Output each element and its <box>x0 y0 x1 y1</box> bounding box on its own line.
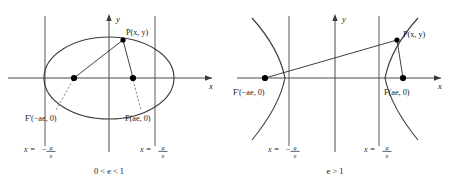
right-focus-point <box>400 75 406 81</box>
hyperbola-panel: x y P(x, y) F'(−ae, 0) F(ae, 0) x = − a … <box>229 0 458 182</box>
right-directrix-label: x = a e <box>139 144 168 160</box>
left-directrix-lhs: x = <box>23 145 35 154</box>
right-directrix-numerator: a <box>161 144 164 151</box>
left-focus-label: F'(−ae, 0) <box>233 88 265 97</box>
left-directrix-lhs: x = <box>267 145 279 154</box>
y-axis-arrowhead <box>332 14 337 21</box>
y-axis-label: y <box>341 14 346 24</box>
ellipse-panel: x y P(x, y) F'(−ae, 0) F(ae, 0) x = − a … <box>0 0 229 182</box>
y-axis-arrowhead <box>106 14 111 21</box>
x-axis-arrowhead <box>434 75 441 81</box>
right-directrix-denominator: e <box>162 152 165 159</box>
right-directrix-denominator: e <box>386 152 389 159</box>
x-axis-arrowhead <box>205 75 212 81</box>
right-focus-leader <box>133 80 141 110</box>
focal-radius-right <box>397 40 403 78</box>
right-focus-label: F(ae, 0) <box>384 88 410 97</box>
right-directrix-lhs: x = <box>139 145 151 154</box>
left-directrix-label: x = − a e <box>267 144 300 160</box>
focal-radius-left <box>74 40 123 78</box>
focal-radius-left <box>265 40 397 78</box>
conic-sections-figure: x y P(x, y) F'(−ae, 0) F(ae, 0) x = − a … <box>0 0 458 182</box>
focal-radius-right <box>123 40 133 78</box>
right-focus-label: F(ae, 0) <box>125 114 151 123</box>
left-directrix-numerator: a <box>49 144 52 151</box>
right-directrix-numerator: a <box>385 144 388 151</box>
left-focus-leader <box>56 80 73 110</box>
left-focus-point <box>71 75 77 81</box>
right-focus-point <box>130 75 136 81</box>
right-directrix-lhs: x = <box>363 145 375 154</box>
hyperbola-left-branch <box>252 18 285 140</box>
moving-point-label: P(x, y) <box>403 30 426 39</box>
left-directrix-denominator: e <box>294 152 297 159</box>
x-axis-label: x <box>208 81 213 91</box>
moving-point-P <box>394 37 399 42</box>
x-axis-label: x <box>437 81 442 91</box>
left-directrix-numerator: a <box>293 144 296 151</box>
moving-point-P <box>120 37 125 42</box>
left-directrix-label: x = − a e <box>23 144 56 160</box>
y-axis-label: y <box>115 14 120 24</box>
right-directrix-label: x = a e <box>363 144 392 160</box>
left-focus-label: F'(−ae, 0) <box>25 114 57 123</box>
hyperbola-caption: e > 1 <box>327 167 344 176</box>
left-focus-point <box>262 75 268 81</box>
ellipse-caption: 0 < e < 1 <box>94 167 124 176</box>
left-directrix-denominator: e <box>50 152 53 159</box>
left-directrix-sign: − <box>42 145 47 154</box>
moving-point-label: P(x, y) <box>126 28 149 37</box>
left-directrix-sign: − <box>286 145 291 154</box>
